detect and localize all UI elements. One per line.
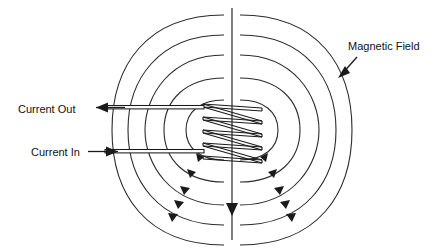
lead-wires	[105, 106, 204, 153]
field-arrowhead-right-5	[286, 213, 296, 222]
field-line-left-3	[145, 55, 224, 205]
field-lines-right	[240, 15, 352, 245]
labels-group: Current Out Current In Magnetic Field	[18, 40, 420, 158]
field-arrowhead-right-3	[274, 186, 284, 195]
field-arrowhead-left-5	[168, 213, 178, 222]
current-in-arrowhead	[106, 147, 118, 157]
field-line-right-1	[240, 100, 278, 160]
field-arrowhead-left-4	[174, 200, 184, 209]
current-out-arrowhead	[96, 103, 108, 113]
field-arrowhead-left-3	[180, 186, 190, 195]
magnetic-field-diagram: Magnetic field of a current-carrying coi…	[0, 0, 444, 248]
magnetic-field-callout-arrow	[338, 57, 357, 78]
center-axis-arrowhead	[226, 203, 238, 216]
current-in-lead-wire	[105, 150, 204, 153]
diagram-canvas: Magnetic field of a current-carrying coi…	[0, 0, 444, 248]
current-in-label: Current In	[31, 146, 80, 158]
field-line-right-4	[240, 35, 336, 225]
field-arrowhead-right-4	[280, 200, 290, 209]
magnetic-field-label: Magnetic Field	[348, 40, 420, 52]
field-line-right-3	[240, 55, 319, 205]
lead-direction-arrows	[88, 103, 125, 157]
field-line-left-2	[164, 78, 224, 182]
current-out-label: Current Out	[18, 103, 75, 115]
